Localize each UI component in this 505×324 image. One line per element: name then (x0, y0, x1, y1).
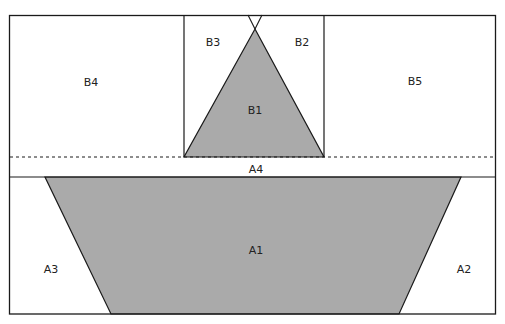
label-a2: A2 (457, 263, 472, 276)
cross-line-left (255, 15, 262, 29)
label-a1: A1 (249, 244, 264, 257)
label-b3: B3 (206, 36, 221, 49)
label-b2: B2 (295, 36, 310, 49)
label-b4: B4 (84, 76, 99, 89)
label-a4: A4 (249, 163, 264, 176)
cross-line-right (248, 15, 255, 29)
label-a3: A3 (44, 263, 59, 276)
label-b1: B1 (248, 104, 263, 117)
label-b5: B5 (408, 75, 423, 88)
